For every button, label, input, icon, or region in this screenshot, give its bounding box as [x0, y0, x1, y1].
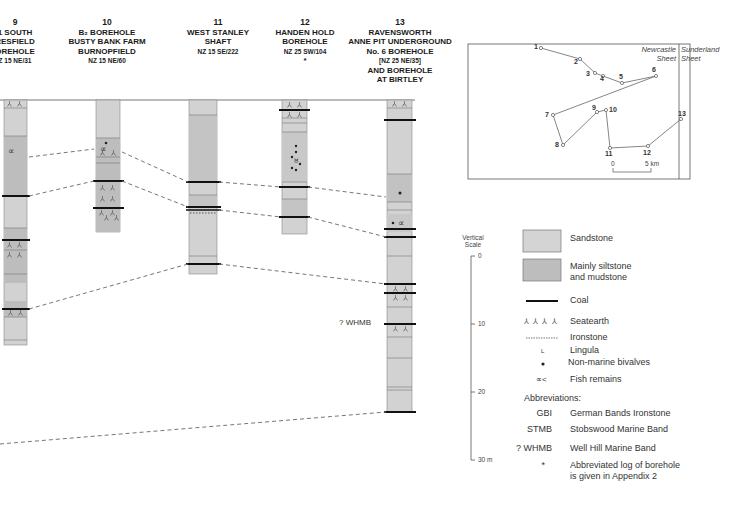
lingula-icon: L: [541, 346, 544, 357]
map-label-sunderland: Sunderland Sheet: [681, 45, 719, 63]
vertical-scale: [471, 256, 475, 460]
borehole-column-10: ∝: [93, 100, 124, 232]
map-point-5: 5: [619, 73, 623, 80]
borehole-column-12: ∝: [279, 100, 310, 234]
vertical-scale-title: Vertical Scale: [460, 234, 486, 248]
map-point-6: 6: [652, 66, 656, 73]
legend-line: and mudstone: [570, 272, 632, 283]
svg-text:∝: ∝: [398, 218, 404, 228]
map-label-line: Newcastle: [632, 45, 676, 54]
scale-tick-30: 30 m: [478, 456, 492, 463]
location-map: [468, 44, 690, 179]
legend-line: is given in Appendix 2: [570, 471, 680, 482]
borehole-column-9: ∝: [2, 100, 30, 345]
legend-siltstone: Mainly siltstone and mudstone: [570, 261, 632, 283]
borehole-column-13: ∝: [384, 100, 416, 412]
map-point-13: 13: [678, 110, 686, 117]
map-point-8: 8: [555, 141, 559, 148]
legend-line: Abbreviated log of borehole: [570, 460, 680, 471]
correlation-diagram: ∝ ∝: [0, 0, 756, 512]
scale-tick-0: 0: [478, 252, 482, 259]
legend-line: Mainly siltstone: [570, 261, 632, 272]
whmb-annotation: ? WHMB: [339, 318, 371, 327]
legend-bivalves: Non-marine bivalves: [568, 357, 650, 368]
map-label-line: Sheet: [632, 54, 676, 63]
map-point-2: 2: [574, 58, 578, 65]
scale-title-line: Vertical: [460, 234, 486, 241]
abbreviations-title: Abbreviations:: [524, 393, 581, 404]
svg-text:∝: ∝: [100, 144, 106, 154]
scale-tick-20: 20: [478, 388, 485, 395]
map-point-7: 7: [545, 111, 549, 118]
abbrev-meaning-asterisk: Abbreviated log of borehole is given in …: [570, 460, 680, 482]
legend-seatearth: Seatearth: [570, 316, 609, 327]
map-point-9: 9: [592, 104, 596, 111]
svg-text:∝: ∝: [8, 146, 14, 156]
map-label-newcastle: Newcastle Sheet: [632, 45, 676, 63]
map-point-10: 10: [609, 106, 617, 113]
abbrev-meaning-stmb: Stobswood Marine Band: [570, 424, 668, 435]
legend-coal: Coal: [570, 295, 589, 306]
map-point-3: 3: [586, 70, 590, 77]
map-scale-start: 0: [611, 160, 615, 167]
map-label-line: Sunderland: [681, 45, 719, 54]
svg-text:∝: ∝: [291, 158, 301, 164]
abbrev-meaning-whmb: Well Hill Marine Band: [570, 443, 656, 454]
map-point-11: 11: [605, 150, 612, 157]
seatearth-icon: ⅄ ⅄ ⅄ ⅄: [524, 316, 558, 327]
abbrev-code-whmb: ? WHMB: [490, 443, 552, 454]
scale-title-line: Scale: [460, 241, 486, 248]
abbrev-code-gbi: GBI: [500, 408, 552, 419]
borehole-column-11: [186, 100, 221, 274]
legend-ironstone: Ironstone: [570, 332, 608, 343]
legend-lingula: Lingula: [570, 345, 599, 356]
map-point-1: 1: [534, 43, 538, 50]
legend-fish: Fish remains: [570, 374, 622, 385]
scale-tick-10: 10: [478, 320, 485, 327]
map-label-line: Sheet: [681, 54, 719, 63]
abbrev-code-asterisk: *: [500, 460, 545, 471]
legend-sandstone: Sandstone: [570, 233, 613, 244]
abbrev-code-stmb: STMB: [500, 424, 552, 435]
map-point-12: 12: [643, 149, 651, 156]
abbrev-meaning-gbi: German Bands Ironstone: [570, 408, 671, 419]
map-point-4: 4: [600, 75, 604, 82]
fish-icon: ∝<: [536, 374, 547, 385]
map-scale-end: 5 km: [645, 160, 659, 167]
